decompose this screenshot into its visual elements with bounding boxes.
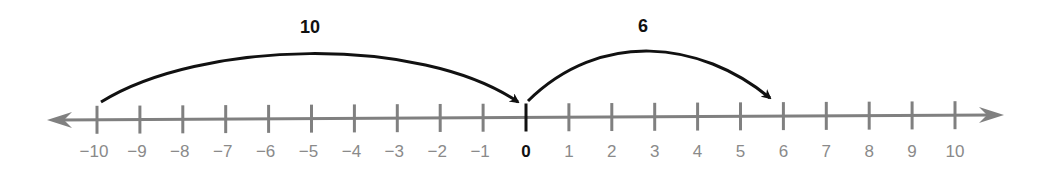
tick-label: 10 [946, 142, 965, 161]
tick-label: −3 [385, 142, 404, 161]
tick-label: 6 [779, 142, 788, 161]
tick-label: −8 [170, 142, 189, 161]
tick-label: 4 [693, 142, 702, 161]
tick-label: 0 [521, 142, 530, 161]
tick-label: −1 [470, 142, 489, 161]
tick-label: 2 [607, 142, 616, 161]
tick-label: −9 [127, 142, 146, 161]
jump-arc-10 [101, 54, 518, 102]
jump-label-6: 6 [638, 16, 648, 36]
tick-label: −5 [299, 142, 318, 161]
tick-label: −2 [428, 142, 447, 161]
tick-label: −7 [213, 142, 232, 161]
tick-label: 9 [907, 142, 916, 161]
jump-label-10: 10 [300, 17, 320, 37]
jump-arc-6 [528, 51, 770, 101]
tick-label: 7 [822, 142, 831, 161]
number-line-diagram: −10−9−8−7−6−5−4−3−2−1012345678910 10 6 [0, 0, 1053, 170]
tick-label: 5 [736, 142, 745, 161]
number-line-svg: −10−9−8−7−6−5−4−3−2−1012345678910 10 6 [0, 0, 1053, 170]
tick-label: −4 [342, 142, 361, 161]
tick-label: 8 [864, 142, 873, 161]
tick-label: 1 [564, 142, 573, 161]
tick-label-group: −10−9−8−7−6−5−4−3−2−1012345678910 [80, 142, 965, 161]
tick-group [97, 101, 955, 134]
tick-label: −6 [256, 142, 275, 161]
tick-label: −10 [80, 142, 109, 161]
tick-label: 3 [650, 142, 659, 161]
